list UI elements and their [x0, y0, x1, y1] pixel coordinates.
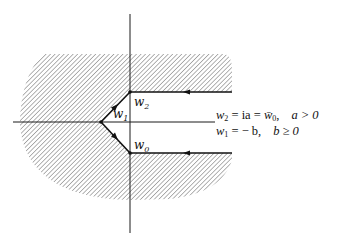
point-w0 [128, 151, 132, 155]
label-w1: w1 [113, 107, 128, 123]
point-w1 [99, 120, 103, 124]
label-w2: w2 [134, 95, 149, 111]
equation-w2: w2 = ia = w̄0,a > 0 [216, 108, 319, 123]
label-w0: w0 [134, 138, 149, 154]
equation-w1: w1 = − b,b ≥ 0 [216, 124, 299, 139]
shaded-region [20, 54, 232, 200]
point-w2 [128, 90, 132, 94]
